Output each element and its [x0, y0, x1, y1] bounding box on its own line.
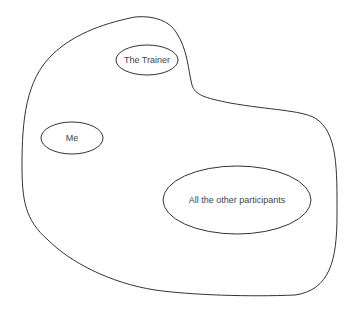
- me-label: Me: [66, 133, 79, 143]
- trainer-label: The Trainer: [124, 55, 170, 65]
- node-others: All the other participants: [163, 166, 311, 234]
- outer-group-boundary: [22, 17, 337, 296]
- diagram-canvas: The Trainer Me All the other participant…: [0, 0, 352, 310]
- others-label: All the other participants: [189, 195, 286, 205]
- node-me: Me: [41, 122, 103, 154]
- node-trainer: The Trainer: [116, 45, 178, 75]
